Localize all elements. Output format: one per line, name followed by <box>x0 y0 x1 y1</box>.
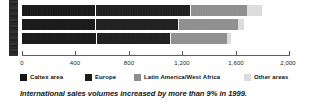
sales-volume-stacked-bar-chart: 0 400 800 1,200 1,600 2,000 Caltex area … <box>0 0 309 105</box>
legend-item-label: Latin America/West Africa <box>144 73 220 81</box>
table-row <box>0 5 309 16</box>
chart-caption: International sales volumes increased by… <box>20 88 305 99</box>
legend-swatch-icon <box>134 74 141 81</box>
chart-plot-area <box>0 2 309 54</box>
legend-swatch-icon <box>85 74 92 81</box>
legend-item-latin-america-west-africa: Latin America/West Africa <box>134 72 220 82</box>
x-axis-tick-label: 0 <box>20 59 23 67</box>
bar-segment-caltex-area <box>22 33 96 44</box>
legend-item-other-areas: Other areas <box>244 72 288 82</box>
x-axis-tick <box>182 51 183 56</box>
legend-item-europe: Europe <box>85 72 116 82</box>
x-axis-tick <box>289 51 290 56</box>
table-row <box>0 19 309 30</box>
legend-item-label: Europe <box>95 73 116 81</box>
legend-swatch-icon <box>20 74 27 81</box>
x-axis-tick-label: 2,000 <box>280 59 296 67</box>
bar-segment-other-areas <box>227 33 231 44</box>
x-axis-tick-label: 1,200 <box>174 59 190 67</box>
legend-item-caltex-area: Caltex area <box>20 72 63 82</box>
bar-segment-latin-america-west-africa <box>178 19 238 30</box>
bar-segment-latin-america-west-africa <box>190 5 247 16</box>
bar-segment-other-areas <box>238 19 244 30</box>
legend-item-label: Other areas <box>254 73 288 81</box>
legend-item-label: Caltex area <box>30 73 63 81</box>
bar-segment-europe <box>95 19 178 30</box>
x-axis-tick-label: 400 <box>70 59 80 67</box>
chart-legend: Caltex area Europe Latin America/West Af… <box>20 72 305 82</box>
x-axis-tick <box>22 51 23 56</box>
bar-segment-caltex-area <box>22 19 95 30</box>
bar-segment-europe <box>95 5 190 16</box>
x-axis-tick-label: 800 <box>124 59 134 67</box>
bar-segment-caltex-area <box>22 5 95 16</box>
x-axis-tick <box>236 51 237 56</box>
legend-swatch-icon <box>244 74 251 81</box>
x-axis-tick <box>129 51 130 56</box>
x-axis-tick-label: 1,600 <box>228 59 244 67</box>
table-row <box>0 33 309 44</box>
bar-segment-other-areas <box>247 5 262 16</box>
x-axis-line <box>22 55 290 56</box>
x-axis-tick <box>75 51 76 56</box>
bar-segment-europe <box>96 33 170 44</box>
bar-segment-latin-america-west-africa <box>170 33 227 44</box>
